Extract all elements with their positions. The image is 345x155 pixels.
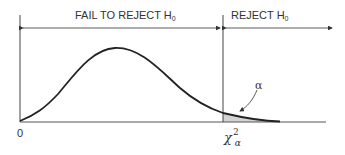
origin-label: 0 [17, 127, 23, 139]
alpha-pointer-arrow [240, 90, 257, 111]
reject-label: REJECT H0 [231, 9, 289, 22]
chi-symbol: χ [224, 130, 232, 145]
critical-value-label: χ2α [224, 127, 241, 148]
alpha-label: α [255, 79, 262, 92]
chi-subscript: α [235, 138, 241, 148]
fail-to-reject-text: FAIL TO REJECT H [75, 9, 172, 21]
h0-subscript: 0 [285, 15, 289, 22]
fail-to-reject-label: FAIL TO REJECT H0 [75, 9, 176, 22]
diagram-graphics [0, 0, 345, 155]
h0-subscript: 0 [172, 15, 176, 22]
chi-superscript: 2 [233, 127, 239, 137]
reject-text: REJECT H [231, 9, 285, 21]
chi-square-diagram: FAIL TO REJECT H0 REJECT H0 0 χ2α α [0, 0, 345, 155]
